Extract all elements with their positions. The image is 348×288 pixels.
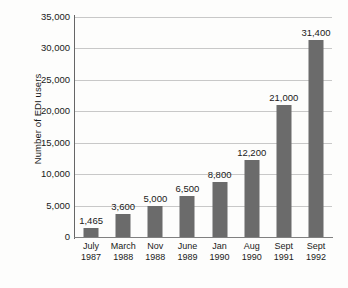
bars-layer: 1,4653,6005,0006,5008,80012,20021,00031,… [75, 17, 332, 237]
x-axis-tick-labels: July1987March1988Nov1988June1989Jan1990A… [75, 241, 332, 271]
y-axis-tick-label: 35,000 [4, 12, 70, 22]
bar-slot: 8,800 [204, 17, 236, 237]
bar-chart: Number of EDI users 35,00030,00025,00020… [0, 0, 348, 288]
bar [84, 228, 99, 237]
y-axis-tick-label: 30,000 [4, 43, 70, 53]
bar-value-label: 3,600 [111, 201, 135, 212]
bar [276, 105, 291, 237]
y-axis-tick-label: 20,000 [4, 106, 70, 116]
bar-value-label: 21,000 [269, 92, 298, 103]
bar-slot: 21,000 [268, 17, 300, 237]
bar-slot: 31,400 [300, 17, 332, 237]
x-axis-tick-label: Sept1991 [268, 241, 300, 263]
x-axis-tick-label: Nov1988 [139, 241, 171, 263]
bar [244, 160, 259, 237]
bar-slot: 6,500 [171, 17, 203, 237]
y-axis-tick-labels: 35,00030,00025,00020,00015,00010,0005,00… [0, 17, 70, 237]
x-axis-tick-label: Aug1990 [236, 241, 268, 263]
bar-slot: 5,000 [139, 17, 171, 237]
y-axis-tick-label: 15,000 [4, 138, 70, 148]
bar-slot: 12,200 [236, 17, 268, 237]
bar [212, 182, 227, 237]
x-axis-tick-label: July1987 [75, 241, 107, 263]
x-axis-tick-label: June1989 [171, 241, 203, 263]
bar-slot: 1,465 [75, 17, 107, 237]
x-axis-tick-label: Sept1992 [300, 241, 332, 263]
y-axis-tick-label: 5,000 [4, 201, 70, 211]
bar-value-label: 12,200 [237, 147, 266, 158]
bar [308, 40, 323, 237]
y-axis-tick-label: 10,000 [4, 169, 70, 179]
bar [148, 206, 163, 237]
y-axis-tick-label: 25,000 [4, 75, 70, 85]
bar-value-label: 1,465 [79, 215, 103, 226]
bar [116, 214, 131, 237]
bar-value-label: 6,500 [176, 183, 200, 194]
bar [180, 196, 195, 237]
bar-value-label: 5,000 [143, 193, 167, 204]
x-axis-line [74, 237, 333, 238]
bar-slot: 3,600 [107, 17, 139, 237]
x-axis-tick-label: Jan1990 [204, 241, 236, 263]
x-axis-tick-label: March1988 [107, 241, 139, 263]
y-axis-tick-label: 0 [4, 232, 70, 242]
bar-value-label: 8,800 [208, 169, 232, 180]
bar-value-label: 31,400 [301, 27, 330, 38]
